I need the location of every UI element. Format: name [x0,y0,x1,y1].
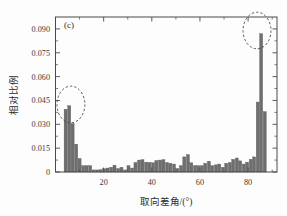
x-tick-label: 40 [148,178,156,187]
histogram-bar [228,162,231,172]
histogram-bar [75,144,78,172]
histogram-bar [253,157,256,172]
histogram-bar [71,124,74,172]
histogram-bar [176,169,179,173]
histogram-bar [89,166,92,172]
histogram-bar [214,165,217,172]
histogram-bar [232,159,235,172]
histogram-bar [82,166,85,172]
histogram-bar [172,164,175,172]
histogram-bar [197,166,200,172]
histogram-bar [131,168,134,172]
x-tick-label: 80 [244,178,252,187]
histogram-bar [211,166,214,172]
histogram-figure: 20406080 00.0150.0300.0450.0600.0750.090… [0,0,287,216]
histogram-bar [183,157,186,172]
histogram-bar [200,166,203,172]
plot-frame [56,17,278,172]
histogram-bar [148,162,151,172]
x-tick-label: 20 [100,178,108,187]
bar-series [64,34,266,172]
histogram-bar [179,166,182,172]
histogram-bar [85,166,88,172]
y-tick-label: 0.075 [32,49,50,58]
histogram-bar [120,167,123,172]
histogram-bar [204,163,207,172]
histogram-bar [242,164,245,172]
histogram-bar [162,160,165,172]
misorientation-angle-histogram: 20406080 00.0150.0300.0450.0600.0750.090… [0,0,287,216]
histogram-bar [64,109,67,172]
histogram-bar [169,163,172,172]
histogram-bar [68,106,71,172]
y-tick-label: 0.015 [32,144,50,153]
histogram-bar [117,169,120,173]
histogram-bar [155,161,158,172]
histogram-bar [165,162,168,172]
histogram-bar [186,155,189,172]
histogram-bar [239,161,242,172]
histogram-bar [113,165,116,172]
histogram-bar [110,167,113,172]
right-peak-highlight-icon [243,12,271,49]
histogram-bar [235,158,238,172]
axes-frame [56,17,278,172]
y-tick-label: 0 [46,168,50,177]
x-axis-ticks: 20406080 [80,17,273,187]
y-tick-label: 0.090 [32,25,50,34]
x-axis-title: 取向差角/(°) [140,196,193,208]
histogram-bar [158,160,161,172]
x-tick-label: 60 [196,178,204,187]
histogram-bar [134,162,137,172]
histogram-bar [256,102,259,172]
histogram-bar [145,162,148,172]
histogram-bar [193,166,196,172]
histogram-bar [249,159,252,172]
histogram-bar [218,164,221,172]
histogram-bar [138,160,141,172]
histogram-bar [207,161,210,172]
histogram-bar [190,163,193,172]
histogram-bar [106,168,109,172]
panel-label: (c) [64,20,74,30]
histogram-bar [141,160,144,172]
histogram-bar [260,34,263,172]
annotation-circles [57,12,271,122]
histogram-bar [225,163,228,172]
histogram-bar [263,112,266,172]
y-tick-label: 0.045 [32,96,50,105]
y-axis-title: 相对比例 [8,75,19,115]
y-tick-label: 0.030 [32,120,50,129]
y-tick-label: 0.060 [32,73,50,82]
